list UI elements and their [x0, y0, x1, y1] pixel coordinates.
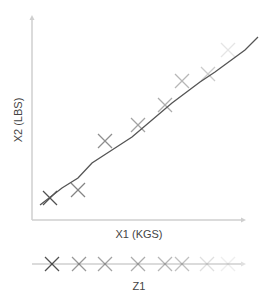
- y-axis-arrow-icon: [30, 15, 35, 20]
- scatter-points: [43, 43, 235, 205]
- z-axis-label: Z1: [133, 280, 146, 292]
- y-axis-label: X2 (LBS): [12, 98, 24, 143]
- x-axis-arrow-icon: [241, 218, 246, 223]
- data-point-cross-icon: [175, 74, 189, 88]
- data-point-cross-icon: [71, 183, 85, 197]
- z-axis-arrow-icon: [241, 262, 246, 267]
- data-point-cross-icon: [221, 43, 235, 57]
- data-point-cross-icon: [98, 134, 112, 148]
- fit-line: [40, 37, 258, 205]
- data-point-cross-icon: [131, 118, 145, 132]
- x-axis-label: X1 (KGS): [115, 228, 162, 240]
- pca-diagram: X2 (LBS) X1 (KGS) Z1: [0, 0, 267, 306]
